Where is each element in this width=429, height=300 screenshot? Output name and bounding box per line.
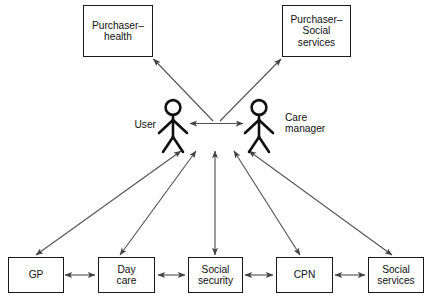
node-purchaser-social-services[interactable]: Purchaser– Social services — [282, 5, 351, 57]
arrow-center-to-purchaser-social — [220, 59, 281, 121]
node-purchaser-social-services-label: Purchaser– Social services — [288, 14, 344, 48]
node-social-security[interactable]: Social security — [188, 257, 243, 293]
node-social-services[interactable]: Social services — [368, 257, 424, 293]
node-gp[interactable]: GP — [8, 257, 64, 293]
connector-layer — [0, 0, 429, 300]
node-day-care-label: Day care — [115, 264, 139, 287]
node-gp-label: GP — [27, 269, 46, 280]
node-purchaser-health[interactable]: Purchaser– health — [83, 5, 153, 57]
node-cpn-label: CPN — [292, 269, 318, 280]
node-social-services-label: Social services — [375, 264, 416, 287]
arrow-daycare-to-actors — [120, 151, 196, 255]
arrow-cpn-to-actors — [234, 151, 300, 255]
node-social-security-label: Social security — [196, 264, 235, 287]
arrow-socialservices-to-actors — [249, 151, 392, 255]
node-cpn[interactable]: CPN — [276, 257, 333, 293]
actor-user-label: User — [118, 119, 156, 130]
actor-care-manager-label: Care manager — [285, 112, 345, 135]
arrow-gp-to-actors — [36, 151, 181, 255]
diagram-canvas: Purchaser– health Purchaser– Social serv… — [0, 0, 429, 300]
node-day-care[interactable]: Day care — [98, 257, 155, 293]
node-purchaser-health-label: Purchaser– health — [90, 20, 146, 43]
arrow-center-to-purchaser-health — [154, 59, 214, 121]
